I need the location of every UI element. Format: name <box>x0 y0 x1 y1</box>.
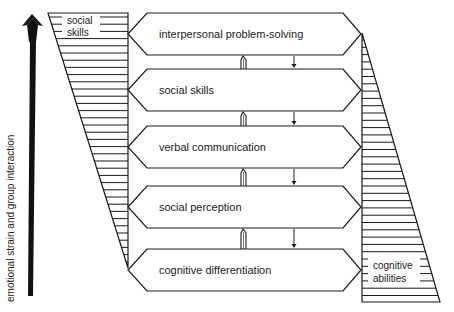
level-interpersonal-problem-solving: interpersonal problem-solving <box>128 13 361 55</box>
level-connector <box>241 229 297 249</box>
axis-label: emotional strain and group interaction <box>5 135 16 302</box>
level-connector <box>241 169 297 186</box>
level-label: interpersonal problem-solving <box>159 28 303 40</box>
level-connector <box>241 56 297 69</box>
diagram-canvas: emotional strain and group interaction s… <box>0 0 454 312</box>
level-label: social perception <box>159 201 242 213</box>
cognitive-abilities-label-line2: abilities <box>373 273 406 284</box>
strain-arrow-icon <box>22 14 43 296</box>
cognitive-abilities-label-line1: cognitive <box>373 260 413 271</box>
social-skills-wedge <box>48 13 128 268</box>
social-skills-label-line1: social <box>67 15 93 26</box>
level-connector <box>241 112 297 126</box>
level-label: social skills <box>159 84 215 96</box>
social-skills-label-line2: skills <box>67 27 89 38</box>
level-verbal-communication: verbal communication <box>128 126 361 168</box>
level-cognitive-differentiation: cognitive differentiation <box>128 249 361 291</box>
level-social-perception: social perception <box>128 186 361 228</box>
level-label: cognitive differentiation <box>159 264 271 276</box>
level-label: verbal communication <box>159 141 266 153</box>
level-social-skills: social skills <box>128 69 361 111</box>
